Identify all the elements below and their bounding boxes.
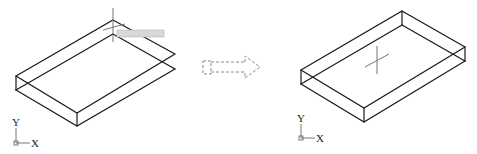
diagram-canvas: Y X Y X <box>0 0 477 154</box>
after-box <box>301 11 465 122</box>
after-ucs-x-label: X <box>316 132 324 144</box>
before-ucs-x-label: X <box>31 137 39 149</box>
before-ucs-icon: Y X <box>12 116 39 149</box>
before-ucs-y-label: Y <box>12 116 20 128</box>
after-box-back-right-edge <box>402 25 465 61</box>
before-box-hidden-back-edge <box>16 34 113 90</box>
before-box-back-right-edge <box>113 34 175 69</box>
after-ucs-y-label: Y <box>297 112 305 124</box>
before-box-bottom-edges <box>16 69 175 126</box>
dynamic-input-tooltip <box>117 30 164 37</box>
after-box-back-left-edge <box>301 25 402 84</box>
after-ucs-icon: Y X <box>297 112 324 144</box>
after-box-top-face <box>301 11 465 108</box>
after-crosshair-cursor <box>365 46 389 74</box>
transition-arrow-icon <box>203 56 260 78</box>
